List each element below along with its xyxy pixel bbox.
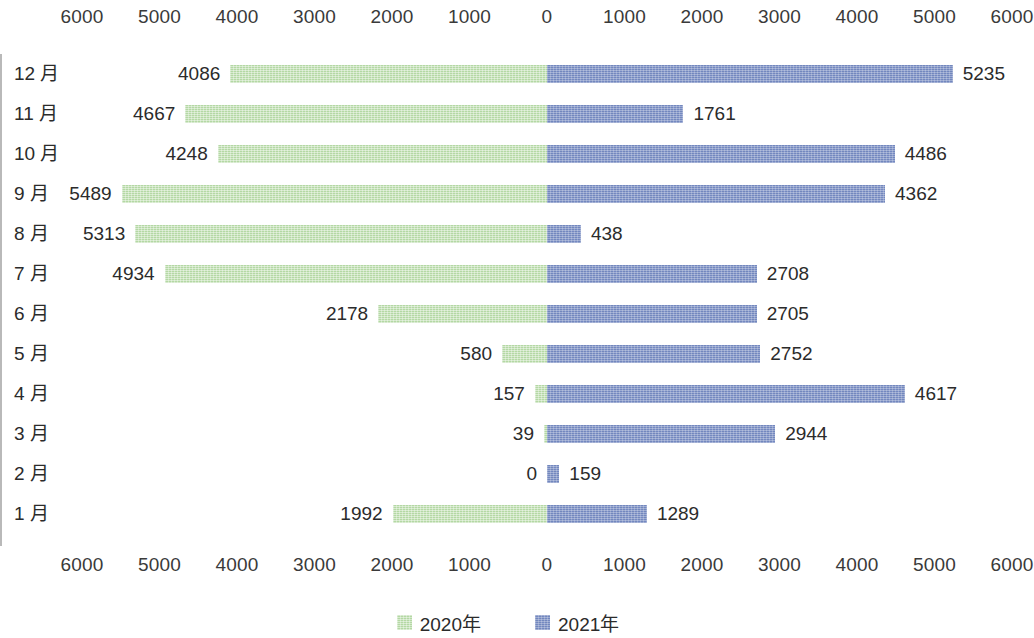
bar-2020: [122, 185, 547, 203]
bar-value-2020: 157: [395, 374, 525, 414]
chart-row: 2 月0159: [0, 454, 1016, 494]
bar-2021: [547, 65, 953, 83]
plot-area: 12 月4086523511 月4667176110 月424844869 月5…: [0, 46, 1016, 546]
axis-tick-bottom: 4000: [835, 552, 878, 578]
axis-tick-top: 0: [542, 4, 553, 30]
axis-tick-top: 5000: [138, 4, 181, 30]
axis-tick-top: 6000: [60, 4, 103, 30]
bar-2021: [547, 345, 760, 363]
axis-tick-bottom: 4000: [215, 552, 258, 578]
chart-row: 1 月19921289: [0, 494, 1016, 534]
axis-tick-bottom: 5000: [913, 552, 956, 578]
bar-2020: [185, 105, 547, 123]
bar-2021: [547, 385, 905, 403]
bar-2020: [393, 505, 547, 523]
legend-item[interactable]: 2021年: [535, 609, 619, 636]
chart-row: 5 月5802752: [0, 334, 1016, 374]
bar-2021: [547, 505, 647, 523]
bar-value-2020: 39: [404, 414, 534, 454]
bar-value-2021: 4617: [915, 374, 957, 414]
axis-tick-bottom: 3000: [293, 552, 336, 578]
bar-2021: [547, 105, 683, 123]
bar-2021: [547, 465, 559, 483]
axis-tick-top: 3000: [758, 4, 801, 30]
axis-tick-top: 4000: [215, 4, 258, 30]
bar-2020: [230, 65, 547, 83]
chart-row: 4 月1574617: [0, 374, 1016, 414]
bar-value-2021: 2708: [767, 254, 809, 294]
chart-row: 3 月392944: [0, 414, 1016, 454]
axis-tick-bottom: 6000: [990, 552, 1033, 578]
category-label: 5 月: [14, 334, 124, 374]
bar-value-2020: 4086: [90, 54, 220, 94]
bar-value-2020: 1992: [253, 494, 383, 534]
chart-row: 11 月46671761: [0, 94, 1016, 134]
axis-top: 6000500040003000200010000100020003000400…: [0, 4, 1016, 30]
axis-tick-bottom: 2000: [680, 552, 723, 578]
chart-row: 12 月40865235: [0, 54, 1016, 94]
category-label: 6 月: [14, 294, 124, 334]
bar-value-2020: 0: [407, 454, 537, 494]
chart-row: 6 月21782705: [0, 294, 1016, 334]
bar-2021: [547, 145, 895, 163]
bar-value-2021: 2705: [767, 294, 809, 334]
bar-value-2021: 5235: [963, 54, 1005, 94]
bar-2020: [535, 385, 547, 403]
chart-row: 8 月5313438: [0, 214, 1016, 254]
bar-value-2020: 2178: [238, 294, 368, 334]
chart-row: 9 月54894362: [0, 174, 1016, 214]
bar-2021: [547, 265, 757, 283]
legend-swatch-icon: [397, 615, 412, 630]
bar-2021: [547, 185, 885, 203]
axis-tick-bottom: 5000: [138, 552, 181, 578]
bar-value-2020: 5313: [0, 214, 125, 254]
axis-tick-bottom: 2000: [370, 552, 413, 578]
bar-value-2021: 2752: [770, 334, 812, 374]
category-label: 1 月: [14, 494, 124, 534]
category-label: 2 月: [14, 454, 124, 494]
axis-tick-top: 6000: [990, 4, 1033, 30]
bar-2020: [135, 225, 547, 243]
bar-value-2020: 580: [362, 334, 492, 374]
bar-value-2021: 159: [569, 454, 601, 494]
legend-label: 2020年: [420, 609, 481, 636]
bar-value-2020: 4667: [45, 94, 175, 134]
legend-item[interactable]: 2020年: [397, 609, 481, 636]
axis-tick-top: 1000: [448, 4, 491, 30]
axis-tick-bottom: 1000: [448, 552, 491, 578]
axis-tick-top: 2000: [680, 4, 723, 30]
category-label: 3 月: [14, 414, 124, 454]
bar-value-2020: 4248: [78, 134, 208, 174]
legend-swatch-icon: [535, 615, 550, 630]
axis-tick-bottom: 0: [542, 552, 553, 578]
bar-2021: [547, 425, 775, 443]
axis-tick-bottom: 6000: [60, 552, 103, 578]
chart-row: 10 月42484486: [0, 134, 1016, 174]
category-label: 4 月: [14, 374, 124, 414]
bar-2020: [502, 345, 547, 363]
bar-value-2020: 4934: [25, 254, 155, 294]
bar-value-2021: 4362: [895, 174, 937, 214]
axis-tick-top: 4000: [835, 4, 878, 30]
bar-2020: [218, 145, 547, 163]
axis-tick-top: 1000: [603, 4, 646, 30]
bar-2021: [547, 305, 757, 323]
legend-label: 2021年: [558, 609, 619, 636]
axis-tick-top: 5000: [913, 4, 956, 30]
bar-value-2021: 1289: [657, 494, 699, 534]
axis-tick-bottom: 3000: [758, 552, 801, 578]
bar-value-2021: 2944: [785, 414, 827, 454]
axis-tick-bottom: 1000: [603, 552, 646, 578]
bar-value-2021: 1761: [693, 94, 735, 134]
bar-value-2021: 438: [591, 214, 623, 254]
axis-bottom: 6000500040003000200010000100020003000400…: [0, 552, 1016, 578]
bar-value-2021: 4486: [905, 134, 947, 174]
axis-tick-top: 2000: [370, 4, 413, 30]
bar-2021: [547, 225, 581, 243]
chart-legend: 2020年2021年: [0, 606, 1016, 638]
bar-value-2020: 5489: [0, 174, 112, 214]
axis-tick-top: 3000: [293, 4, 336, 30]
chart-row: 7 月49342708: [0, 254, 1016, 294]
bar-2020: [165, 265, 547, 283]
